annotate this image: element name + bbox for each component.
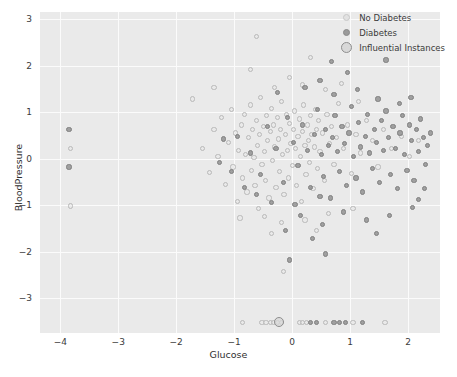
data-point — [375, 96, 380, 101]
data-point — [200, 146, 205, 151]
y-axis-tick-label: 3 — [6, 14, 32, 24]
scatter-plot-figure: BloodPressure Glucose No DiabetesDiabete… — [0, 0, 457, 377]
data-point — [66, 164, 71, 169]
x-axis-tick-label: −4 — [54, 337, 67, 347]
y-axis-tick-label: −3 — [6, 293, 32, 303]
data-point — [323, 251, 328, 256]
data-point — [374, 231, 379, 236]
data-point — [68, 203, 73, 208]
grid-line-vertical — [118, 12, 119, 333]
y-axis-tick-label: 1 — [6, 107, 32, 117]
data-point — [386, 135, 391, 140]
data-point — [287, 257, 292, 262]
data-point — [305, 148, 310, 153]
data-point — [294, 183, 299, 188]
legend: No DiabetesDiabetesInfluential Instances — [329, 6, 451, 59]
data-point — [337, 320, 342, 325]
data-point — [291, 127, 296, 132]
x-axis-tick-label: −2 — [170, 337, 183, 347]
data-point — [395, 186, 400, 191]
data-point — [275, 90, 280, 95]
data-point — [258, 95, 263, 100]
grid-line-vertical — [60, 12, 61, 333]
data-point — [323, 87, 328, 92]
data-point — [323, 320, 328, 325]
data-point — [331, 92, 336, 97]
data-point — [254, 118, 259, 123]
data-point — [269, 106, 274, 111]
legend-label: No Diabetes — [359, 13, 411, 23]
grid-line-horizontal — [40, 205, 440, 206]
data-point — [259, 162, 264, 167]
data-point — [235, 199, 240, 204]
data-point — [339, 81, 344, 86]
data-point — [223, 182, 228, 187]
data-point — [211, 127, 216, 132]
data-point — [295, 134, 300, 139]
data-point — [305, 122, 310, 127]
data-point — [281, 269, 286, 274]
x-axis-tick-label: −1 — [228, 337, 241, 347]
data-point — [298, 154, 303, 159]
legend-label: Influential Instances — [359, 43, 445, 53]
data-point — [246, 135, 251, 140]
y-axis-tick-label: −1 — [6, 200, 32, 210]
data-point — [314, 228, 319, 233]
grid-line-vertical — [292, 12, 293, 333]
data-point — [360, 320, 365, 325]
data-point — [295, 163, 300, 168]
data-point — [397, 101, 402, 106]
y-axis-label: BloodPressure — [13, 128, 24, 228]
legend-marker-icon — [335, 29, 357, 36]
data-point — [409, 138, 414, 143]
legend-label: Diabetes — [359, 28, 397, 38]
data-point — [421, 135, 426, 140]
data-point — [240, 320, 245, 325]
data-point — [332, 113, 337, 118]
data-point — [229, 169, 234, 174]
data-point — [287, 75, 292, 80]
data-point — [329, 124, 334, 129]
x-axis-label: Glucose — [0, 349, 457, 360]
data-point — [280, 152, 285, 157]
data-point — [249, 168, 254, 173]
data-point — [407, 122, 412, 127]
data-point — [410, 205, 415, 210]
y-axis-tick-label: 2 — [6, 61, 32, 71]
data-point — [349, 104, 354, 109]
data-point — [381, 127, 386, 132]
data-point — [377, 180, 382, 185]
data-point — [382, 320, 387, 325]
data-point — [276, 136, 281, 141]
data-point — [297, 116, 302, 121]
data-point — [248, 67, 253, 72]
data-point — [221, 136, 226, 141]
grid-line-horizontal — [40, 252, 440, 253]
data-point — [345, 70, 350, 75]
legend-item: Influential Instances — [335, 40, 445, 55]
data-point — [387, 213, 392, 218]
data-point — [242, 112, 247, 117]
grid-line-horizontal — [40, 159, 440, 160]
data-point — [353, 132, 358, 137]
data-point — [235, 134, 240, 139]
data-point — [356, 120, 361, 125]
x-axis-tick-label: 1 — [347, 337, 353, 347]
data-point — [356, 99, 361, 104]
data-point — [237, 215, 242, 220]
data-point — [257, 132, 262, 137]
data-point — [317, 194, 322, 199]
data-point — [331, 162, 336, 167]
data-point — [428, 130, 433, 135]
data-point — [270, 158, 275, 163]
data-point — [345, 122, 350, 127]
data-point — [407, 154, 412, 159]
data-point — [317, 78, 322, 83]
data-point — [273, 146, 278, 151]
x-axis-tick-label: 0 — [289, 337, 295, 347]
data-point — [252, 183, 257, 188]
data-point — [279, 220, 284, 225]
data-point — [290, 163, 295, 168]
data-point — [326, 211, 331, 216]
data-point — [310, 236, 315, 241]
